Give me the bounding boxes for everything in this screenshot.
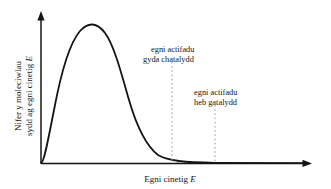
x-axis-title-text: Egni cinetig [144, 174, 190, 184]
annotation-with-catalyst-line1: egni actifadu [151, 45, 195, 54]
annotation-without-catalyst-line2: heb gatalydd [194, 98, 238, 107]
annotation-without-catalyst-line1: egni actifadu [194, 88, 238, 97]
shaded-area-without-catalyst [215, 110, 310, 164]
y-axis-arrowhead [37, 11, 44, 21]
y-axis-title: Nifer y moleciwlau sydd ag egni cinetig … [13, 56, 34, 136]
figure-canvas: egni actifadu gyda chatalydd egni actifa… [0, 0, 331, 189]
annotation-with-catalyst-line2: gyda chatalydd [143, 55, 195, 64]
hatch-fill-with-catalyst [172, 110, 215, 164]
hatch-fill-without-catalyst [215, 110, 310, 164]
annotation-with-catalyst: egni actifadu gyda chatalydd [143, 45, 195, 64]
y-axis-title-line1: Nifer y moleciwlau [13, 61, 23, 131]
y-axis-title-line2-variable: E [24, 56, 34, 63]
annotation-without-catalyst: egni actifadu heb gatalydd [194, 88, 238, 107]
y-axis-title-line2-text: sydd ag egni cinetig [24, 62, 34, 136]
maxwell-boltzmann-figure: egni actifadu gyda chatalydd egni actifa… [0, 0, 331, 189]
x-axis-title: Egni cinetig E [144, 174, 196, 184]
y-axis-title-line2: sydd ag egni cinetig E [24, 56, 34, 136]
x-axis-title-variable: E [189, 174, 196, 184]
y-axis [37, 11, 44, 163]
shaded-area-with-catalyst [172, 110, 215, 164]
